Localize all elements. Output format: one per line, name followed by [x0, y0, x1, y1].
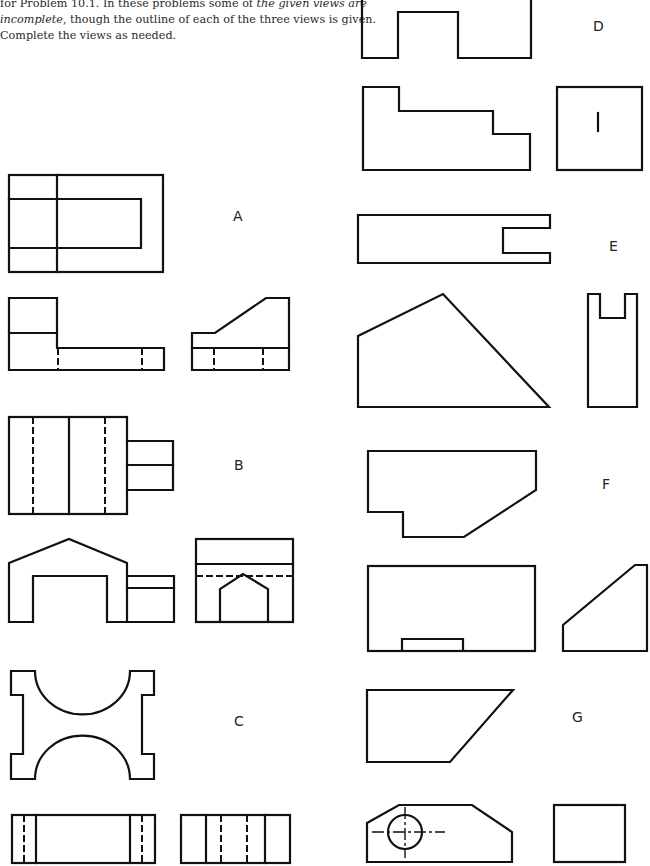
problem-f-label: F — [602, 476, 610, 492]
problem-e-front-view — [358, 294, 549, 407]
problem-f-front-view — [368, 566, 535, 651]
problem-b: B — [9, 417, 293, 622]
problem-c-front-view — [12, 815, 155, 863]
problem-e-top-view — [358, 215, 550, 263]
problem-f: F — [368, 451, 647, 651]
problem-d-front-view — [363, 87, 530, 170]
problem-e-label: E — [609, 238, 618, 254]
problem-d: D — [362, 0, 642, 170]
problem-c-top-view — [11, 671, 154, 779]
problem-d-label: D — [593, 18, 604, 34]
orthographic-drawings: A B — [0, 0, 650, 866]
problem-c-side-view — [181, 815, 290, 863]
problem-b-top-view — [9, 417, 173, 514]
problem-b-front-view — [9, 539, 174, 622]
problem-c: C — [11, 671, 290, 863]
problem-a-side-view — [192, 298, 289, 370]
problem-g-side-view — [554, 805, 625, 862]
problem-f-side-view — [563, 565, 647, 651]
problem-d-top-view — [362, 0, 531, 58]
problem-e-side-view — [588, 294, 637, 407]
problem-c-label: C — [234, 713, 244, 729]
problem-a-top-view — [9, 175, 163, 272]
problem-a-front-view — [9, 298, 164, 370]
problem-g-front-view — [367, 805, 512, 862]
problem-b-side-view — [196, 539, 293, 622]
problem-f-top-view — [368, 451, 536, 537]
problem-g-label: G — [572, 709, 583, 725]
problem-e: E — [358, 215, 637, 407]
problem-a: A — [9, 175, 289, 370]
problem-g: G — [367, 690, 625, 862]
problem-d-side-view — [557, 87, 642, 170]
problem-g-top-view — [367, 690, 513, 762]
problem-a-label: A — [233, 208, 243, 224]
problem-b-label: B — [234, 457, 244, 473]
